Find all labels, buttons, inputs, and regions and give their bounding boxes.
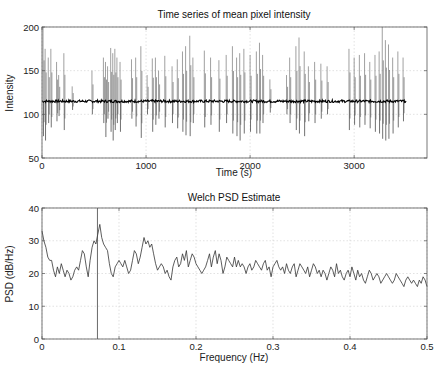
y-axis-label: Intensity: [4, 74, 15, 111]
y-tick-label: 100: [23, 109, 39, 120]
x-axis-label: Frequency (Hz): [200, 352, 269, 363]
x-tick-label: 0: [39, 341, 44, 352]
x-tick-label: 0: [39, 160, 44, 171]
y-tick-label: 50: [28, 153, 39, 164]
x-tick-label: 0.4: [343, 341, 356, 352]
y-tick-label: 10: [28, 301, 39, 312]
y-tick-label: 40: [28, 203, 39, 214]
x-tick-label: 3000: [344, 160, 365, 171]
x-tick-label: 0.1: [112, 341, 125, 352]
plot-frame: [42, 27, 427, 158]
intensity-line: [42, 27, 406, 141]
psd-chart: Welch PSD Estimate 00.10.20.30.40.5 0102…: [4, 192, 434, 363]
y-tick-label: 30: [28, 235, 39, 246]
chart-title: Welch PSD Estimate: [188, 192, 281, 203]
grid: [42, 27, 427, 158]
time-series-chart: Time series of mean pixel intensity 0100…: [4, 9, 427, 178]
y-tick-label: 0: [34, 334, 39, 345]
x-axis-label: Time (s): [216, 167, 252, 178]
y-axis-label: PSD (dB/Hz): [4, 245, 15, 302]
x-tick-label: 1000: [135, 160, 156, 171]
y-tick-label: 200: [23, 22, 39, 33]
y-tick-label: 20: [28, 268, 39, 279]
y-axis-ticks: 50100150200: [23, 22, 427, 164]
x-tick-label: 0.3: [266, 341, 279, 352]
chart-title: Time series of mean pixel intensity: [157, 9, 310, 20]
x-tick-label: 0.2: [189, 341, 202, 352]
figure: Time series of mean pixel intensity 0100…: [0, 0, 446, 377]
x-tick-label: 0.5: [420, 341, 433, 352]
y-tick-label: 150: [23, 65, 39, 76]
grid: [42, 208, 427, 339]
